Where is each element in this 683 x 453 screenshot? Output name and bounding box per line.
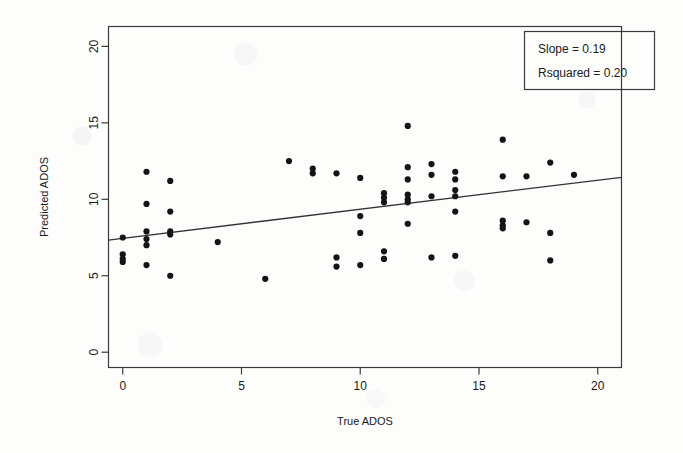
data-point — [428, 193, 434, 199]
data-point — [523, 173, 529, 179]
data-point — [452, 169, 458, 175]
data-point — [357, 262, 363, 268]
data-point — [571, 172, 577, 178]
data-point — [357, 213, 363, 219]
x-tick-label: 15 — [472, 379, 486, 393]
y-axis-ticks — [102, 46, 109, 352]
data-point — [500, 225, 506, 231]
data-point — [428, 161, 434, 167]
data-point — [215, 239, 221, 245]
y-tick-label: 20 — [88, 39, 102, 53]
data-point — [120, 259, 126, 265]
data-point — [381, 199, 387, 205]
x-tick-label: 0 — [119, 379, 126, 393]
x-tick-label: 10 — [354, 379, 368, 393]
data-point — [452, 208, 458, 214]
y-tick-label: 15 — [88, 116, 102, 130]
data-point — [333, 254, 339, 260]
data-point — [381, 248, 387, 254]
x-axis-ticks — [123, 368, 598, 375]
data-point — [523, 219, 529, 225]
x-axis-tick-labels: 05101520 — [119, 379, 604, 393]
data-point — [500, 137, 506, 143]
data-point — [452, 176, 458, 182]
data-point — [310, 170, 316, 176]
data-point — [143, 236, 149, 242]
y-tick-label: 10 — [88, 192, 102, 206]
data-point — [167, 208, 173, 214]
rsquared-label: Rsquared = 0.20 — [538, 66, 627, 80]
data-point — [405, 164, 411, 170]
x-tick-label: 20 — [591, 379, 605, 393]
data-point — [143, 262, 149, 268]
data-point — [452, 187, 458, 193]
slope-label: Slope = 0.19 — [538, 42, 606, 56]
y-axis-tick-labels: 05101520 — [88, 39, 102, 355]
data-point — [333, 263, 339, 269]
data-point — [452, 253, 458, 259]
data-point — [262, 276, 268, 282]
data-point — [405, 221, 411, 227]
data-point — [286, 158, 292, 164]
data-point — [405, 123, 411, 129]
x-axis-title: True ADOS — [337, 415, 393, 427]
data-point — [381, 256, 387, 262]
data-point — [120, 234, 126, 240]
data-point — [357, 230, 363, 236]
data-point — [143, 242, 149, 248]
data-point — [167, 273, 173, 279]
data-point — [547, 257, 553, 263]
data-point — [143, 228, 149, 234]
y-axis-title: Predicted ADOS — [38, 157, 50, 237]
data-point — [167, 231, 173, 237]
data-point — [143, 169, 149, 175]
data-point — [500, 173, 506, 179]
x-tick-label: 5 — [238, 379, 245, 393]
data-point — [405, 199, 411, 205]
data-point — [333, 170, 339, 176]
chart-page: 05101520 05101520 Predicted ADOS True AD… — [0, 0, 683, 453]
data-points — [120, 123, 577, 282]
data-point — [143, 201, 149, 207]
data-point — [428, 172, 434, 178]
data-point — [357, 175, 363, 181]
data-point — [547, 230, 553, 236]
scatter-plot: 05101520 05101520 Predicted ADOS True AD… — [0, 0, 683, 453]
stats-box — [525, 32, 655, 90]
regression-line — [109, 177, 622, 240]
y-tick-label: 5 — [88, 272, 102, 279]
data-point — [167, 178, 173, 184]
y-tick-label: 0 — [88, 349, 102, 356]
data-point — [452, 193, 458, 199]
data-point — [405, 176, 411, 182]
data-point — [547, 159, 553, 165]
data-point — [428, 254, 434, 260]
